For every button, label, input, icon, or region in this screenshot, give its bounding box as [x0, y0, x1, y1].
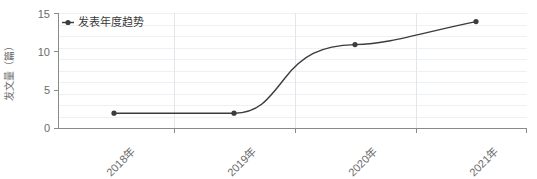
data-point-2021	[473, 19, 478, 24]
y-tick-label-5: 5	[44, 84, 50, 96]
y-axis: 15 10 5 0	[38, 8, 59, 135]
data-point-2018	[111, 111, 116, 116]
line-chart-container: 15 10 5 0 发文量（篇） 2018年 2019年 2020年 2021年	[0, 0, 537, 178]
y-axis-title: 发文量（篇）	[3, 41, 15, 101]
horizontal-gridlines	[59, 14, 527, 118]
legend-marker-dot-icon	[65, 20, 70, 25]
legend-label-publication-trend: 发表年度趋势	[78, 15, 144, 28]
y-tick-label-10: 10	[38, 46, 50, 58]
y-tick-label-0: 0	[44, 122, 50, 134]
data-point-2020	[352, 42, 357, 47]
x-tick-label-2018: 2018年	[103, 144, 137, 178]
chart-legend: 发表年度趋势	[62, 15, 144, 28]
x-tick-label-2021: 2021年	[466, 144, 500, 178]
data-point-2019	[231, 111, 236, 116]
publication-trend-chart: 15 10 5 0 发文量（篇） 2018年 2019年 2020年 2021年	[0, 0, 537, 178]
x-axis: 2018年 2019年 2020年 2021年	[59, 129, 528, 179]
x-tick-label-2019: 2019年	[224, 144, 258, 178]
x-tick-label-2020: 2020年	[345, 144, 379, 178]
y-tick-label-15: 15	[38, 8, 50, 20]
